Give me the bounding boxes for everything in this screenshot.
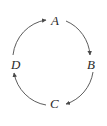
node-label-b: B [87,58,95,71]
edge-a-to-b [66,21,90,55]
edge-c-to-d [14,73,46,105]
edge-d-to-a [13,20,46,55]
node-label-c: C [50,97,59,110]
node-label-d: D [11,58,20,71]
edge-b-to-c [66,72,93,104]
node-label-a: A [51,14,59,27]
cycle-diagram: A B C D [0,0,107,126]
